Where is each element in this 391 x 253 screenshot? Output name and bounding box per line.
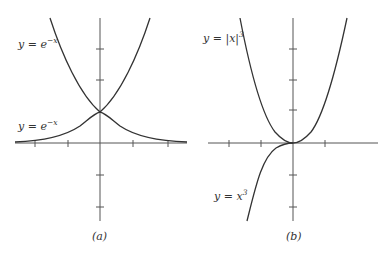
panel-b: y = |x|3 y = x3 (b) <box>202 18 378 243</box>
label-b-cube: y = x3 <box>213 188 248 203</box>
label-a-lower: y = e−x <box>17 118 58 133</box>
figure: y = e−x y = e−x (a) y = |x|3 y = <box>0 0 391 253</box>
panel-a: y = e−x y = e−x (a) <box>15 18 187 243</box>
label-a-upper: y = e−x <box>17 36 58 51</box>
caption-a: (a) <box>92 230 107 243</box>
caption-b: (b) <box>286 230 302 243</box>
label-b-abs-cube: y = |x|3 <box>202 30 244 46</box>
curve-cube <box>247 143 293 221</box>
